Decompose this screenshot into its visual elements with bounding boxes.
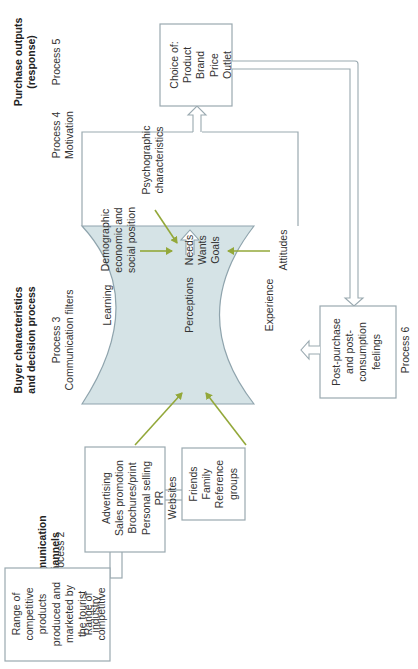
filter-experience: Experience [263, 255, 276, 355]
post-purchase-text: Post-purchase and post- consumption feel… [330, 310, 383, 394]
process-6-text: Process 6 [399, 320, 412, 380]
header-buyer-line2: and decision process [25, 286, 37, 394]
header-outputs-line1: Purchase outputs [12, 18, 24, 107]
attitudes-text: Attitudes [277, 220, 290, 280]
choice-line: Choice of: [168, 30, 181, 100]
process-3-sublabel: Communication filters [63, 290, 75, 391]
header-buyer-line1: Buyer characteristics [12, 286, 24, 393]
stimulus-text: Range of competitive products produced a… [10, 574, 102, 654]
channel-item: PR [153, 448, 166, 548]
wants-label: Wants [196, 220, 209, 280]
psychographic-line: characteristics [153, 115, 166, 205]
post-purchase-line: and post- [343, 310, 356, 394]
post-purchase-line: feelings [370, 310, 383, 394]
post-purchase-line: Post-purchase [330, 310, 343, 394]
friends-text: Friends Family Reference groups [187, 452, 240, 516]
choice-line: Price [208, 30, 221, 100]
friends-item: Friends [187, 452, 200, 516]
stimulus-line: the tourist [76, 574, 89, 654]
motivation-to-choice-arrow [188, 106, 206, 132]
process-4-label: Process 4 [50, 111, 62, 158]
post-purchase-to-experience-arrow [301, 341, 320, 359]
choice-text: Choice of: Product Brand Price Outlet [168, 30, 234, 100]
channels-text: Advertising Sales promotion Brochures/pr… [100, 448, 179, 548]
psychographic-text: Psychographic characteristics [140, 115, 166, 205]
choice-line: Outlet [221, 30, 234, 100]
post-purchase-line: consumption [356, 310, 369, 394]
process-3-label: Process 3 [50, 316, 62, 363]
stimulus-line: products [36, 574, 49, 654]
channel-item: Personal selling [140, 448, 153, 548]
attitudes-label: Attitudes [277, 220, 290, 280]
stimulus-line: Range of [10, 574, 23, 654]
header-motivation: Process 4 Motivation [50, 111, 75, 159]
channel-item: Sales promotion [113, 448, 126, 548]
header-outputs-line2: (response) [25, 35, 37, 89]
stimulus-line: competitive [23, 574, 36, 654]
demographic-line: economic and [112, 195, 125, 285]
stimulus-line: industry [89, 574, 102, 654]
friends-item: groups [227, 452, 240, 516]
channel-item: Websites [166, 448, 179, 548]
process-4-sublabel: Motivation [63, 111, 75, 159]
friends-item: Reference [213, 452, 226, 516]
psychographic-line: Psychographic [140, 115, 153, 205]
needs-label: Needs [183, 220, 196, 280]
header-outputs: Purchase outputs (response) Process 5 [12, 18, 62, 107]
needs-wants-goals-text: Needs Wants Goals [183, 220, 223, 280]
stimulus-line: produced and [50, 574, 63, 654]
experience-label: Experience [263, 255, 276, 355]
choice-line: Product [181, 30, 194, 100]
demographic-line: social position [125, 195, 138, 285]
header-buyer: Buyer characteristics and decision proce… [12, 286, 75, 394]
process-5-label: Process 5 [50, 38, 62, 85]
demographic-text: Demographic economic and social position [99, 195, 139, 285]
demographic-line: Demographic [99, 195, 112, 285]
channel-item: Advertising [100, 448, 113, 548]
choice-line: Brand [194, 30, 207, 100]
friends-item: Family [200, 452, 213, 516]
process-6-label: Process 6 [399, 320, 412, 380]
goals-label: Goals [209, 220, 222, 280]
stimulus-line: marketed by [63, 574, 76, 654]
channel-item: Brochures/print [126, 448, 139, 548]
